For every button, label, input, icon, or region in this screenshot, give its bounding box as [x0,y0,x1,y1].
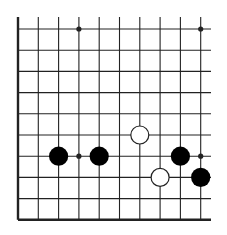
white-stone[interactable] [151,168,169,186]
white-stone[interactable] [131,126,149,144]
black-stone[interactable] [191,168,210,187]
board-grid [18,17,211,220]
black-stone[interactable] [90,147,109,166]
go-board[interactable] [0,0,227,235]
star-point-icon [198,154,203,159]
star-point-icon [198,26,203,31]
black-stone[interactable] [49,147,68,166]
black-stone[interactable] [171,147,190,166]
star-point-icon [76,154,81,159]
star-point-icon [76,26,81,31]
